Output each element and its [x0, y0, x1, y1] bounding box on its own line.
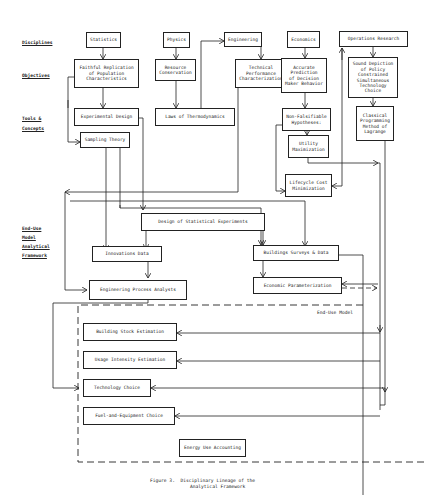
- node-technical-performance[interactable]: Technical Performance Characterization: [235, 59, 287, 88]
- node-statistics[interactable]: Statistics: [86, 32, 121, 48]
- node-accurate-prediction[interactable]: Accurate Prediction of Decision Maker Be…: [281, 58, 327, 93]
- node-classical-programming[interactable]: Classical Programming Method of Lagrange: [356, 106, 394, 141]
- end-use-model-title: End-Use Model: [317, 310, 353, 316]
- node-utility-maximization[interactable]: Utility Maximization: [288, 135, 329, 158]
- row-label-concepts: Concepts: [22, 126, 44, 131]
- node-economics[interactable]: Economics: [287, 31, 320, 48]
- node-sound-depiction[interactable]: Sound Depiction of Policy Constrained Si…: [348, 57, 398, 98]
- node-economic-parameterization[interactable]: Economic Parameterization: [253, 277, 342, 294]
- node-resource-conservation[interactable]: Resource Conservation: [155, 59, 196, 81]
- node-energy-accounting[interactable]: Energy Use Accounting: [179, 439, 246, 457]
- node-technology-choice[interactable]: Technology Choice: [83, 379, 151, 397]
- node-laws-thermodynamics[interactable]: Laws of Thermodynamics: [155, 108, 235, 126]
- figure-caption-line2: Analytical Framework: [190, 484, 245, 490]
- node-fuel-equipment[interactable]: Fuel-and-Equipment Choice: [83, 407, 175, 425]
- node-sampling-theory[interactable]: Sampling Theory: [80, 132, 130, 148]
- node-design-statistical-experiments[interactable]: Design of Statistical Experiments: [141, 213, 265, 231]
- node-building-stock[interactable]: Building Stock Estimation: [83, 323, 177, 341]
- row-label-enduse: End-Use: [22, 226, 41, 231]
- node-buildings-surveys[interactable]: Buildings Surveys & Data: [253, 245, 339, 261]
- row-label-analytical: Analytical: [22, 244, 50, 249]
- node-operations-research[interactable]: Operations Research: [339, 31, 408, 47]
- node-faithful-replication-label: Faithful Replication of Population Chara…: [79, 65, 133, 81]
- node-physics[interactable]: Physics: [163, 32, 190, 48]
- node-experimental-design[interactable]: Experimental Design: [74, 108, 139, 126]
- row-label-objectives: Objectives: [22, 73, 50, 78]
- node-non-falsifiable[interactable]: Non-Falsifiable Hypotheses:: [282, 108, 331, 131]
- node-engineering-process[interactable]: Engineering Process Analysts: [89, 280, 187, 300]
- node-lifecycle-cost[interactable]: Lifecycle Cost Minimization: [285, 174, 332, 197]
- node-engineering[interactable]: Engineering: [224, 32, 262, 47]
- node-faithful-replication[interactable]: Faithful Replication of Population Chara…: [74, 59, 139, 88]
- row-label-framework: Framework: [22, 253, 47, 258]
- row-label-tools: Tools &: [22, 116, 41, 121]
- row-label-model: Model: [22, 235, 36, 240]
- node-innovations-data[interactable]: Innovations Data: [92, 246, 162, 262]
- row-label-disciplines: Disciplines: [22, 40, 52, 45]
- node-usage-intensity[interactable]: Usage Intensity Estimation: [83, 351, 177, 369]
